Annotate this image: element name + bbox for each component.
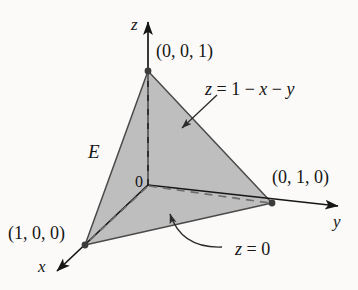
plane-equation-label: z = 1 − x − y xyxy=(205,80,294,98)
vertex-dot-x-intercept xyxy=(82,242,89,249)
vertex-label-y-intercept: (0, 1, 0) xyxy=(272,168,329,186)
plane-equation-part-z: z xyxy=(205,79,212,99)
origin-label: 0 xyxy=(135,174,143,190)
plane-equation-part-eq1: = 1 − xyxy=(212,79,259,99)
plane-equation-part-minus: − xyxy=(267,79,286,99)
y-axis-label: y xyxy=(333,213,341,230)
base-plane-label: z = 0 xyxy=(235,240,270,258)
z-axis-label: z xyxy=(131,16,138,33)
region-label-E: E xyxy=(88,142,100,161)
figure-canvas: z y x 0 (0, 0, 1) (0, 1, 0) (1, 0, 0) E … xyxy=(0,0,358,290)
plane-equation-leader-arrow xyxy=(182,95,217,128)
base-plane-part-z: z xyxy=(235,239,242,259)
vertex-dot-y-intercept xyxy=(269,200,276,207)
vertex-label-x-intercept: (1, 0, 0) xyxy=(8,224,65,242)
vertex-dot-z-intercept xyxy=(145,68,152,75)
base-plane-part-eq: = 0 xyxy=(242,239,270,259)
x-axis-label: x xyxy=(38,258,46,275)
vertex-label-z-intercept: (0, 0, 1) xyxy=(156,42,213,60)
plane-equation-part-y: y xyxy=(286,79,294,99)
